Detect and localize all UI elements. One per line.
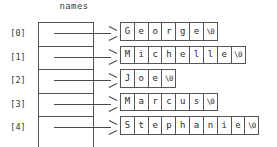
- char-cell: e: [217, 46, 232, 65]
- index-label-4: [4]: [4, 116, 32, 140]
- arrow-line-2: [54, 80, 111, 81]
- char-cell: o: [148, 22, 163, 41]
- char-cell: \0: [161, 69, 176, 88]
- arrow-right-icon: [108, 99, 118, 109]
- string-row: Marcus\0: [120, 93, 259, 117]
- index-label-1: [1]: [4, 46, 32, 70]
- char-cell: o: [134, 69, 149, 88]
- pointer-arrow-2: [54, 75, 119, 86]
- char-cell: \0: [203, 22, 218, 41]
- char-cell: i: [134, 46, 149, 65]
- char-cell: \0: [231, 46, 246, 65]
- array-label: names: [44, 1, 104, 11]
- char-cell: e: [175, 46, 190, 65]
- char-cell: l: [189, 46, 204, 65]
- arrow-line-3: [54, 104, 111, 105]
- arrow-line-0: [54, 33, 111, 34]
- char-cell: M: [120, 46, 135, 65]
- char-cell: e: [189, 22, 204, 41]
- char-cell: e: [148, 116, 163, 135]
- char-cell: i: [217, 116, 232, 135]
- char-cell: M: [120, 93, 135, 112]
- char-cell: h: [175, 116, 190, 135]
- char-cell: J: [120, 69, 135, 88]
- string-row: Michelle\0: [120, 46, 259, 70]
- index-label-column: [0] [1] [2] [3] [4]: [4, 22, 32, 140]
- string-row: George\0: [120, 22, 259, 46]
- pointer-arrow-1: [54, 52, 119, 63]
- char-cell: h: [161, 46, 176, 65]
- char-cell: r: [148, 93, 163, 112]
- char-cell: \0: [244, 116, 259, 135]
- string-array-diagram: names [0] [1] [2] [3] [4] George\0 M: [0, 0, 277, 147]
- arrow-line-4: [54, 127, 111, 128]
- arrow-right-icon: [108, 29, 118, 39]
- char-cell: u: [175, 93, 190, 112]
- char-cell: e: [134, 22, 149, 41]
- char-cell: g: [175, 22, 190, 41]
- index-label-0: [0]: [4, 22, 32, 46]
- char-cell: r: [161, 22, 176, 41]
- char-cell: e: [148, 69, 163, 88]
- arrow-right-icon: [108, 52, 118, 62]
- char-cell: l: [203, 46, 218, 65]
- arrow-right-icon: [108, 123, 118, 133]
- char-cell: a: [189, 116, 204, 135]
- pointer-arrow-3: [54, 99, 119, 110]
- string-rows: George\0 Michelle\0 Joe\0 Marcus\0 Steph…: [120, 22, 259, 140]
- char-cell: c: [148, 46, 163, 65]
- string-row: Joe\0: [120, 69, 259, 93]
- arrow-line-1: [54, 57, 111, 58]
- char-cell: t: [134, 116, 149, 135]
- index-label-2: [2]: [4, 69, 32, 93]
- char-cell: n: [203, 116, 218, 135]
- char-cell: c: [161, 93, 176, 112]
- pointer-arrow-4: [54, 122, 119, 133]
- char-cell: a: [134, 93, 149, 112]
- index-label-3: [3]: [4, 93, 32, 117]
- pointer-arrow-0: [54, 28, 119, 39]
- arrow-right-icon: [108, 76, 118, 86]
- char-cell: \0: [203, 93, 218, 112]
- char-cell: S: [120, 116, 135, 135]
- char-cell: G: [120, 22, 135, 41]
- char-cell: p: [161, 116, 176, 135]
- char-cell: s: [189, 93, 204, 112]
- string-row: Stephanie\0: [120, 116, 259, 140]
- char-cell: e: [231, 116, 246, 135]
